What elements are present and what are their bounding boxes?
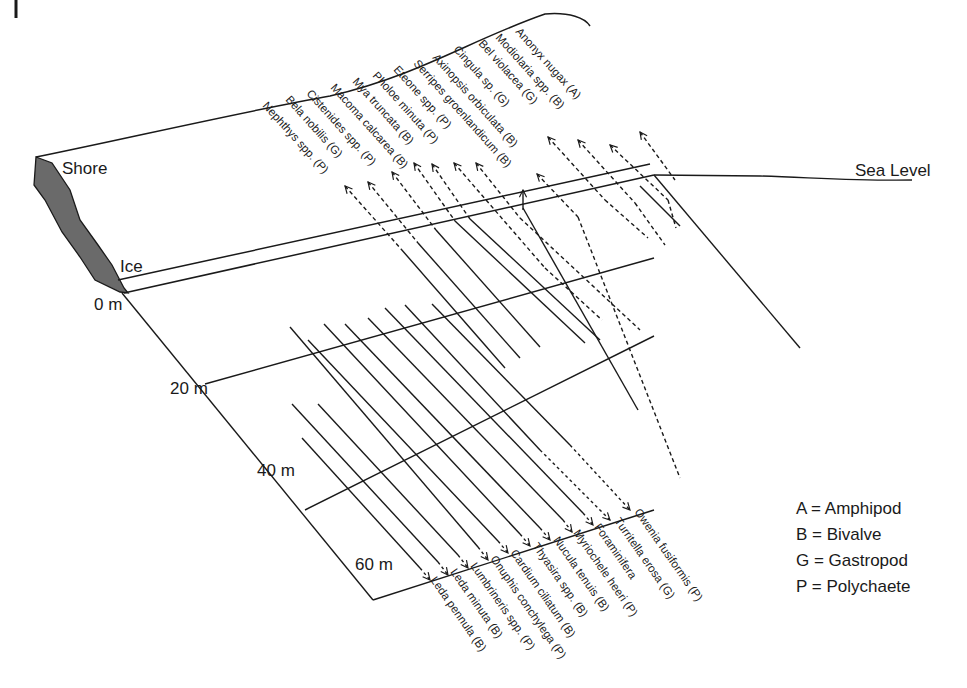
sea-level-label: Sea Level (855, 161, 931, 180)
deep-species-labels: Leda pennula (B) Leda minuta (B) Lumbrin… (428, 506, 705, 661)
shallow-species-ranges (345, 132, 680, 478)
species-label: Serripes groenlandicum (B) (412, 57, 515, 169)
slope-edge (122, 293, 373, 600)
legend-item-amphipod: A = Amphipod (796, 499, 901, 518)
depth-label-0m: 0 m (94, 295, 122, 314)
benthic-zonation-diagram: Shore Ice Sea Level 0 m 20 m 40 m 60 m N… (0, 0, 967, 688)
legend: A = Amphipod B = Bivalve G = Gastropod P… (796, 499, 911, 596)
legend-item-polychaete: P = Polychaete (796, 577, 911, 596)
slab-right-edge (654, 175, 800, 348)
depth-label-20m: 20 m (170, 379, 208, 398)
shore-label: Shore (62, 159, 107, 178)
ice-label: Ice (120, 257, 143, 276)
legend-item-bivalve: B = Bivalve (796, 525, 882, 544)
legend-item-gastropod: G = Gastropod (796, 551, 908, 570)
ice-bottom-line (124, 175, 654, 293)
depth-label-60m: 60 m (355, 555, 393, 574)
depth-line-40m (305, 336, 654, 510)
depth-label-40m: 40 m (257, 461, 295, 480)
ice-top-line (118, 164, 650, 280)
